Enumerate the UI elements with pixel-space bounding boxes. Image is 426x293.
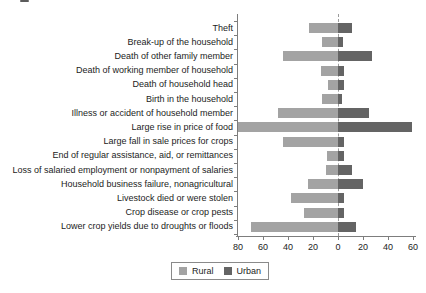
y-tick-mark bbox=[234, 92, 237, 93]
y-tick-mark bbox=[234, 49, 237, 50]
category-label: End of regular assistance, aid, or remit… bbox=[2, 150, 233, 161]
rural-bar bbox=[251, 222, 339, 232]
y-tick-mark bbox=[234, 234, 237, 235]
x-tick-mark bbox=[313, 236, 314, 240]
legend: Rural Urban bbox=[171, 262, 269, 280]
y-tick-mark bbox=[234, 163, 237, 164]
legend-label-rural: Rural bbox=[192, 266, 214, 276]
y-tick-mark bbox=[234, 21, 237, 22]
urban-bar bbox=[338, 151, 344, 161]
rural-bar bbox=[322, 94, 338, 104]
category-label: Livestock died or were stolen bbox=[2, 193, 233, 204]
urban-bar bbox=[338, 23, 352, 33]
rural-bar bbox=[328, 80, 338, 90]
y-tick-mark bbox=[234, 177, 237, 178]
y-tick-mark bbox=[234, 220, 237, 221]
x-tick-mark bbox=[413, 236, 414, 240]
diverging-bar-chart-figure: TheftBreak-up of the householdDeath of o… bbox=[0, 0, 426, 293]
urban-bar bbox=[338, 37, 343, 47]
y-tick-mark bbox=[234, 106, 237, 107]
y-tick-mark bbox=[234, 206, 237, 207]
rural-bar bbox=[304, 208, 338, 218]
urban-bar bbox=[338, 122, 412, 132]
rural-bar bbox=[309, 23, 338, 33]
x-tick-label: 0 bbox=[335, 242, 340, 252]
legend-swatch-urban bbox=[224, 267, 232, 275]
y-axis-line bbox=[237, 14, 238, 237]
urban-bar bbox=[338, 165, 352, 175]
y-tick-mark bbox=[234, 35, 237, 36]
rural-bar bbox=[321, 66, 339, 76]
category-label: Large rise in price of food bbox=[2, 122, 233, 133]
x-tick-label: 20 bbox=[308, 242, 318, 252]
category-label: Loss of salaried employment or nonpaymen… bbox=[2, 165, 233, 176]
category-label: Break-up of the household bbox=[2, 37, 233, 48]
x-tick-mark bbox=[388, 236, 389, 240]
x-tick-mark bbox=[238, 236, 239, 240]
rural-bar bbox=[283, 51, 338, 61]
urban-bar bbox=[338, 80, 344, 90]
x-tick-label: 60 bbox=[408, 242, 418, 252]
x-tick-label: 20 bbox=[358, 242, 368, 252]
urban-bar bbox=[338, 222, 356, 232]
category-label: Large fall in sale prices for crops bbox=[2, 136, 233, 147]
urban-bar bbox=[338, 179, 363, 189]
urban-bar bbox=[338, 51, 372, 61]
rural-bar bbox=[278, 108, 338, 118]
urban-bar bbox=[338, 137, 344, 147]
rural-bar bbox=[283, 137, 338, 147]
urban-bar bbox=[338, 208, 344, 218]
category-label: Death of household head bbox=[2, 79, 233, 90]
category-label: Death of other family member bbox=[2, 51, 233, 62]
y-tick-mark bbox=[234, 149, 237, 150]
x-tick-label: 60 bbox=[258, 242, 268, 252]
rural-bar bbox=[238, 122, 338, 132]
urban-bar bbox=[338, 108, 369, 118]
x-tick-mark bbox=[363, 236, 364, 240]
urban-bar bbox=[338, 94, 342, 104]
category-label: Illness or accident of household member bbox=[2, 108, 233, 119]
rural-bar bbox=[291, 193, 339, 203]
x-tick-label: 80 bbox=[233, 242, 243, 252]
category-label: Crop disease or crop pests bbox=[2, 207, 233, 218]
rural-bar bbox=[326, 165, 339, 175]
legend-swatch-rural bbox=[179, 267, 187, 275]
x-tick-mark bbox=[263, 236, 264, 240]
plot-area: 806040200204060 bbox=[237, 14, 416, 236]
x-tick-mark bbox=[338, 236, 339, 240]
category-label: Household business failure, nonagricultu… bbox=[2, 179, 233, 190]
category-label: Theft bbox=[2, 23, 233, 34]
x-tick-label: 40 bbox=[283, 242, 293, 252]
category-label: Birth in the household bbox=[2, 94, 233, 105]
y-tick-mark bbox=[234, 64, 237, 65]
y-tick-mark bbox=[234, 135, 237, 136]
cropped-caption-fragment bbox=[20, 0, 29, 2]
x-tick-label: 40 bbox=[383, 242, 393, 252]
category-label: Lower crop yields due to droughts or flo… bbox=[2, 221, 233, 232]
x-tick-mark bbox=[288, 236, 289, 240]
category-label: Death of working member of household bbox=[2, 65, 233, 76]
legend-label-urban: Urban bbox=[237, 266, 262, 276]
y-tick-mark bbox=[234, 120, 237, 121]
y-tick-mark bbox=[234, 78, 237, 79]
urban-bar bbox=[338, 193, 344, 203]
rural-bar bbox=[322, 37, 338, 47]
urban-bar bbox=[338, 66, 344, 76]
y-tick-mark bbox=[234, 191, 237, 192]
rural-bar bbox=[327, 151, 338, 161]
rural-bar bbox=[308, 179, 338, 189]
